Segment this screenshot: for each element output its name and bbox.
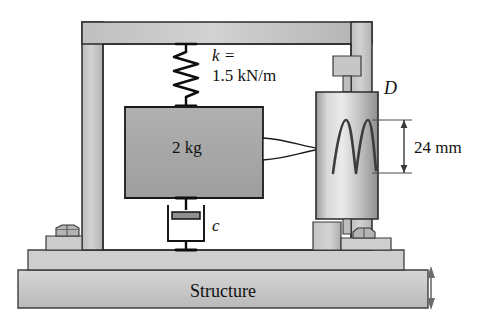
anchor-bolt-right <box>353 228 375 238</box>
mass-label: 2 kg <box>172 138 202 157</box>
schematic-drawing <box>0 0 500 326</box>
figure-canvas: k = 1.5 kN/m 2 kg c D 24 mm Structure <box>0 0 500 326</box>
frame-left-foot <box>46 236 82 250</box>
cylinder-label: D <box>384 78 397 98</box>
mounting-slab <box>28 250 404 270</box>
spring-constant-symbol: k = <box>212 46 235 65</box>
spring-constant-value: 1.5 kN/m <box>212 66 276 85</box>
damping-coefficient-label: c <box>212 216 220 235</box>
amplitude-label: 24 mm <box>414 138 462 157</box>
frame-left-column <box>82 22 103 250</box>
anchor-bolt-left <box>56 225 79 236</box>
coil-spring <box>174 44 198 106</box>
frame-top-beam <box>82 22 372 44</box>
dashpot-damper <box>168 198 204 250</box>
stylus-arm <box>263 138 322 160</box>
structure-label: Structure <box>190 281 256 301</box>
spring-constant-label: k = <box>212 46 235 65</box>
